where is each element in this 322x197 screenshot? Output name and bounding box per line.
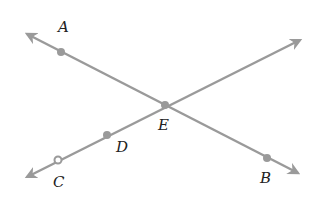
label-C: C	[53, 173, 65, 191]
point-D	[103, 131, 111, 139]
point-C	[55, 157, 62, 164]
point-E	[161, 101, 169, 109]
point-B	[263, 154, 271, 162]
label-E: E	[157, 116, 169, 134]
intersecting-lines-diagram: A B C D E	[0, 0, 322, 197]
point-A	[57, 48, 65, 56]
label-B: B	[259, 169, 271, 187]
label-A: A	[56, 18, 69, 36]
label-D: D	[115, 138, 128, 156]
